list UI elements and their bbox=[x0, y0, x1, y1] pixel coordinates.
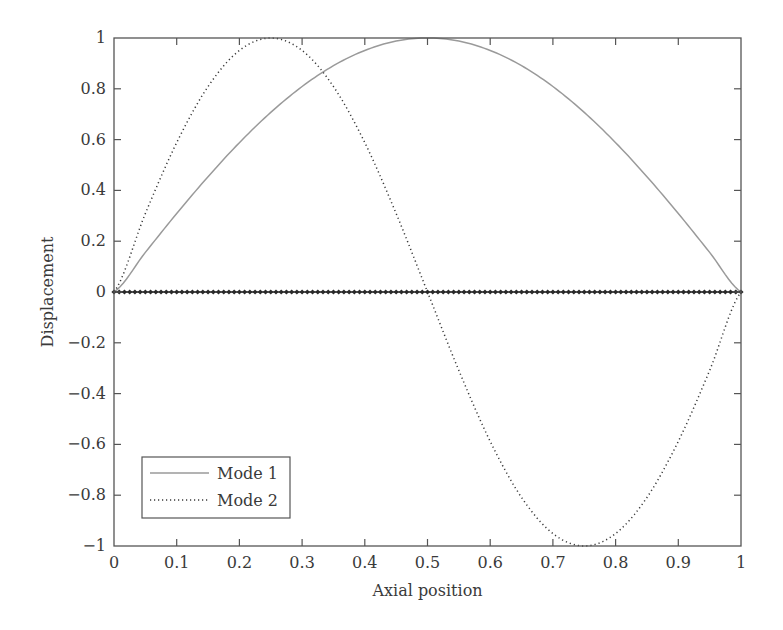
y-tick-label: 1 bbox=[96, 28, 106, 47]
y-tick-label: 0 bbox=[96, 282, 106, 301]
legend-label-mode-1: Mode 1 bbox=[217, 464, 278, 483]
y-tick-label: −1 bbox=[82, 536, 106, 555]
y-tick-label: 0.2 bbox=[81, 231, 106, 250]
chart-canvas: 00.10.20.30.40.50.60.70.80.91 −1−0.8−0.6… bbox=[0, 0, 783, 630]
y-tick-label: −0.6 bbox=[67, 434, 106, 453]
x-tick-label: 0.5 bbox=[415, 553, 440, 572]
y-axis-label: Displacement bbox=[38, 236, 57, 347]
x-tick-label: 0.3 bbox=[289, 553, 314, 572]
x-tick-label: 0.4 bbox=[352, 553, 377, 572]
y-tick-label: 0.4 bbox=[81, 180, 106, 199]
x-tick-label: 0.2 bbox=[227, 553, 252, 572]
y-tick-label: −0.8 bbox=[67, 485, 106, 504]
x-tick-label: 0.7 bbox=[540, 553, 565, 572]
x-axis-label: Axial position bbox=[371, 581, 482, 600]
legend: Mode 1 Mode 2 bbox=[142, 457, 290, 518]
x-tick-label: 0.1 bbox=[164, 553, 189, 572]
legend-label-mode-2: Mode 2 bbox=[217, 491, 278, 510]
x-tick-label: 0 bbox=[109, 553, 119, 572]
x-tick-label: 0.6 bbox=[477, 553, 502, 572]
x-tick-label: 1 bbox=[736, 553, 746, 572]
y-tick-label: 0.6 bbox=[81, 130, 106, 149]
x-tick-label: 0.9 bbox=[666, 553, 691, 572]
chart-background bbox=[0, 0, 783, 630]
x-tick-label: 0.8 bbox=[603, 553, 628, 572]
y-tick-label: −0.2 bbox=[67, 333, 106, 352]
y-tick-label: 0.8 bbox=[81, 79, 106, 98]
y-tick-label: −0.4 bbox=[67, 384, 106, 403]
